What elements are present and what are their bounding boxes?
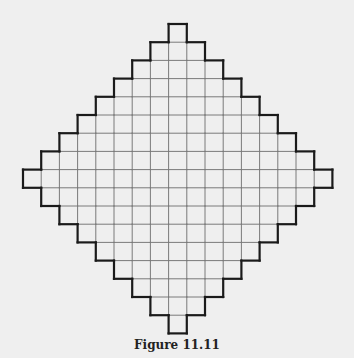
diamond-grid-figure xyxy=(0,0,354,358)
figure-caption: Figure 11.11 xyxy=(0,338,354,352)
